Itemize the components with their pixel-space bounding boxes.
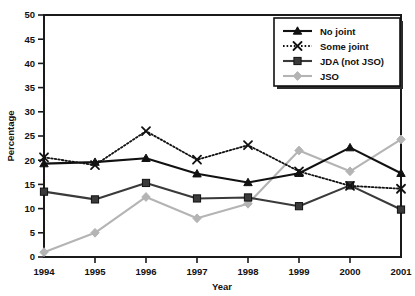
y-axis-tick-label: 35 bbox=[24, 82, 35, 93]
data-point-triangle bbox=[346, 143, 354, 150]
data-point-diamond bbox=[193, 214, 201, 223]
data-point-square bbox=[294, 57, 301, 64]
data-point-square bbox=[295, 203, 302, 210]
legend-item-jda-not-jso-[interactable]: JDA (not JSO) bbox=[283, 56, 384, 67]
data-point-x bbox=[142, 127, 150, 135]
x-axis-tick-label: 2001 bbox=[390, 266, 412, 277]
x-axis-tick-label: 1994 bbox=[33, 266, 55, 277]
chart-container: 05101520253035404550 1994199519961997199… bbox=[0, 0, 415, 296]
y-axis-tick-label: 50 bbox=[24, 9, 35, 20]
y-axis-tick-label: 40 bbox=[24, 58, 35, 69]
y-axis-tick-label: 30 bbox=[24, 106, 35, 117]
data-point-square bbox=[91, 196, 98, 203]
data-point-square bbox=[397, 206, 404, 213]
y-axis-tick-group: 05101520253035404550 bbox=[24, 9, 44, 262]
series-line bbox=[44, 131, 401, 189]
y-axis-tick-label: 25 bbox=[24, 130, 35, 141]
x-axis-tick-label: 2000 bbox=[339, 266, 360, 277]
legend-label: Some joint bbox=[320, 41, 369, 52]
y-axis-tick-label: 5 bbox=[30, 227, 36, 238]
series-no-joint bbox=[40, 143, 405, 185]
y-axis-title: Percentage bbox=[5, 110, 16, 161]
y-axis-tick-label: 20 bbox=[24, 155, 35, 166]
y-axis-tick-label: 10 bbox=[24, 203, 35, 214]
chart-legend: No jointSome jointJDA (not JSO)JSO bbox=[274, 18, 403, 89]
data-point-square bbox=[193, 195, 200, 202]
x-axis-tick-label: 1995 bbox=[84, 266, 106, 277]
legend-label: JSO bbox=[320, 71, 339, 82]
x-axis-tick-label: 1997 bbox=[186, 266, 207, 277]
y-axis-tick-label: 0 bbox=[30, 251, 35, 262]
line-chart: 05101520253035404550 1994199519961997199… bbox=[0, 0, 415, 296]
x-axis-tick-label: 1999 bbox=[288, 266, 309, 277]
data-series-group bbox=[40, 127, 405, 256]
x-axis-tick-group: 19941995199619971998199920002001 bbox=[33, 257, 412, 277]
x-axis-title: Year bbox=[212, 281, 232, 292]
x-axis-tick-label: 1996 bbox=[135, 266, 156, 277]
series-jda-not-jso- bbox=[40, 179, 404, 213]
y-axis-tick-label: 15 bbox=[24, 179, 35, 190]
data-point-square bbox=[244, 194, 251, 201]
data-point-diamond bbox=[40, 248, 48, 257]
legend-label: JDA (not JSO) bbox=[320, 56, 384, 67]
data-point-square bbox=[40, 188, 47, 195]
legend-label: No joint bbox=[320, 26, 356, 37]
y-axis-tick-label: 45 bbox=[24, 34, 35, 45]
data-point-square bbox=[142, 179, 149, 186]
x-axis-tick-label: 1998 bbox=[237, 266, 258, 277]
